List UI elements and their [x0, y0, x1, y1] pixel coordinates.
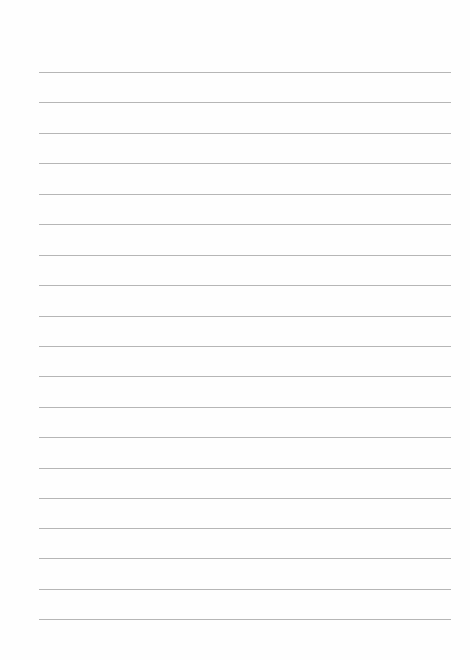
ruled-line: [39, 316, 451, 317]
ruled-line: [39, 619, 451, 620]
ruled-line: [39, 346, 451, 347]
ruled-paper-page: [0, 0, 470, 660]
ruled-line: [39, 558, 451, 559]
ruled-line: [39, 194, 451, 195]
ruled-line: [39, 376, 451, 377]
ruled-line: [39, 163, 451, 164]
ruled-line: [39, 468, 451, 469]
ruled-line: [39, 528, 451, 529]
ruled-line: [39, 102, 451, 103]
ruled-line: [39, 589, 451, 590]
ruled-line: [39, 498, 451, 499]
ruled-line: [39, 437, 451, 438]
ruled-line: [39, 255, 451, 256]
ruled-line: [39, 224, 451, 225]
ruled-line: [39, 285, 451, 286]
ruled-line: [39, 72, 451, 73]
ruled-line: [39, 133, 451, 134]
ruled-line: [39, 407, 451, 408]
